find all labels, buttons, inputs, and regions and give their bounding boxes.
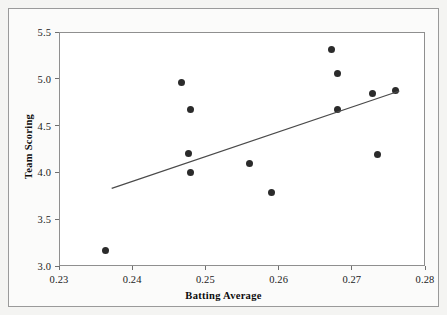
x-tick-label: 0.23	[50, 274, 69, 285]
y-tick-mark	[55, 172, 59, 173]
data-point	[392, 87, 399, 94]
x-tick-label: 0.26	[269, 274, 288, 285]
data-point	[369, 90, 376, 97]
y-tick-mark	[55, 78, 59, 79]
y-tick-mark	[55, 219, 59, 220]
x-axis-label: Batting Average	[0, 290, 447, 301]
x-tick-mark	[59, 266, 60, 270]
data-point	[374, 151, 381, 158]
data-point	[268, 189, 275, 196]
y-axis-label: Team Scoring	[23, 112, 34, 182]
y-tick-mark	[55, 32, 59, 33]
y-tick-mark	[55, 266, 59, 267]
data-point	[334, 106, 341, 113]
x-tick-label: 0.24	[123, 274, 142, 285]
data-point	[334, 70, 341, 77]
x-tick-label: 0.25	[196, 274, 215, 285]
figure-container: 0.230.240.250.260.270.28 3.03.54.04.55.0…	[0, 0, 447, 315]
x-tick-label: 0.27	[342, 274, 361, 285]
x-tick-mark	[425, 266, 426, 270]
plot-frame	[59, 32, 425, 266]
y-tick-label: 3.5	[23, 214, 51, 225]
x-tick-mark	[132, 266, 133, 270]
x-tick-mark	[351, 266, 352, 270]
data-point	[102, 247, 109, 254]
y-tick-label: 3.0	[23, 261, 51, 272]
scatter-chart: 0.230.240.250.260.270.28 3.03.54.04.55.0…	[0, 0, 447, 315]
x-tick-mark	[205, 266, 206, 270]
y-tick-label: 5.0	[23, 73, 51, 84]
y-tick-label: 5.5	[23, 27, 51, 38]
x-tick-label: 0.28	[416, 274, 435, 285]
x-tick-mark	[278, 266, 279, 270]
y-tick-mark	[55, 125, 59, 126]
